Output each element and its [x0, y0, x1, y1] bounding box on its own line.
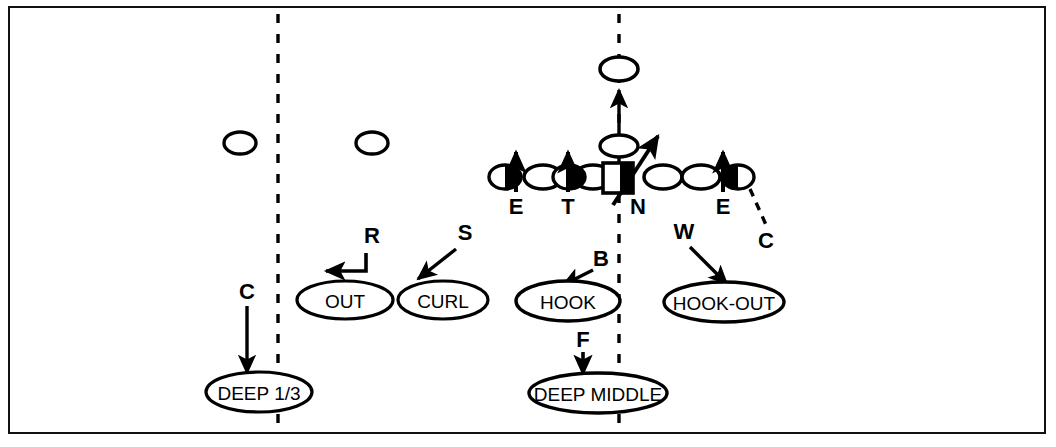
- defender-label-tackle: T: [561, 194, 575, 219]
- offense-receiver-left-outside: [224, 132, 256, 154]
- zone-key-label-hook-out: W: [674, 219, 695, 244]
- zone-hook[interactable]: HOOK: [516, 281, 620, 321]
- defender-label-end-right: E: [716, 194, 731, 219]
- zone-key-label-hook: B: [593, 246, 609, 271]
- offense-group: [224, 57, 720, 193]
- defender-end-right: [722, 165, 754, 189]
- zone-deep-middle[interactable]: DEEP MIDDLE: [529, 373, 667, 413]
- coverage-zones-group: OUT CURL HOOK HOOK-OUT DEEP 1/3 DEEP MID: [206, 281, 784, 413]
- zone-arrow-curl: S: [418, 220, 472, 279]
- zone-key-label-curl: S: [458, 220, 473, 245]
- hash-marks-group: [278, 14, 619, 424]
- zone-out[interactable]: OUT: [297, 281, 393, 319]
- zone-arrow-hook: B: [563, 246, 609, 285]
- zone-arrow-curl-path: [418, 249, 456, 279]
- defender-label-end-left: E: [509, 194, 524, 219]
- offense-lineman-right-tackle: [682, 165, 720, 189]
- zone-arrow-out: R: [326, 223, 380, 271]
- offense-quarterback: [600, 135, 638, 157]
- play-diagram-root: E T N E C R S B W: [0, 0, 1056, 447]
- corner-drop-right-group: C: [750, 189, 774, 253]
- zone-key-label-out: R: [364, 223, 380, 248]
- diagram-svg-layer: E T N E C R S B W: [0, 0, 1056, 447]
- corner-drop-right-dashed-line: [750, 189, 767, 227]
- offense-receiver-left-slot: [356, 132, 388, 154]
- zone-label-deep-middle: DEEP MIDDLE: [534, 384, 662, 405]
- zone-deep-third[interactable]: DEEP 1/3: [206, 372, 312, 412]
- offense-receiver-deep-back: [600, 57, 638, 81]
- zone-arrow-hook-out-path: [690, 247, 727, 284]
- zone-arrow-deep-middle: F: [576, 327, 589, 374]
- offense-lineman-right-guard: [644, 165, 682, 189]
- zone-arrow-deep-third: C: [239, 279, 255, 373]
- zone-label-out: OUT: [325, 291, 366, 312]
- zone-label-deep-third: DEEP 1/3: [217, 383, 300, 404]
- zone-arrow-hook-out: W: [674, 219, 727, 284]
- zone-hook-out[interactable]: HOOK-OUT: [664, 282, 784, 322]
- zone-label-curl: CURL: [417, 291, 469, 312]
- zone-curl[interactable]: CURL: [398, 281, 488, 319]
- corner-drop-right-label: C: [758, 228, 774, 253]
- zone-label-hook: HOOK: [540, 292, 596, 313]
- zone-label-hook-out: HOOK-OUT: [673, 293, 776, 314]
- zone-key-label-deep-middle: F: [576, 327, 589, 352]
- defender-label-nose: N: [630, 194, 646, 219]
- zone-key-label-deep-third: C: [239, 279, 255, 304]
- zone-arrow-out-path: [326, 253, 366, 271]
